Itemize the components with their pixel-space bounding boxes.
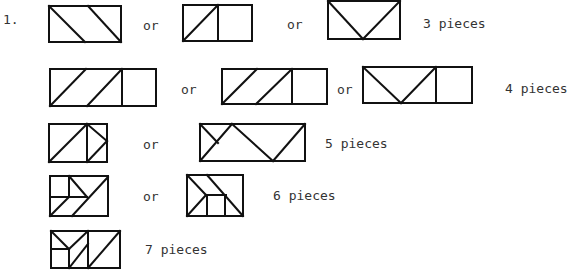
problem-number: 1. (3, 13, 19, 26)
or-label: or (337, 83, 353, 96)
row4-shape-a (50, 176, 108, 216)
row2-shape-b (222, 69, 327, 104)
row1-shape-b (183, 5, 252, 41)
row2-shape-c (363, 67, 472, 103)
dissection-figure-page: 1. or or 3 pieces or or 4 pieces or 5 pi… (0, 0, 571, 276)
row3-shape-b (200, 124, 305, 161)
row3-shape-a (49, 124, 107, 162)
or-label: or (143, 138, 159, 151)
or-label: or (181, 83, 197, 96)
row2-shape-a (50, 69, 156, 106)
row1-shape-c (328, 1, 400, 39)
row5-shape-a (51, 231, 120, 268)
pieces-label-row5: 7 pieces (145, 243, 208, 256)
pieces-label-row2: 4 pieces (505, 82, 568, 95)
or-label: or (143, 190, 159, 203)
pieces-label-row4: 6 pieces (273, 189, 336, 202)
or-label: or (143, 19, 159, 32)
pieces-label-row3: 5 pieces (325, 137, 388, 150)
or-label: or (287, 18, 303, 31)
pieces-label-row1: 3 pieces (423, 17, 486, 30)
row1-shape-a (49, 6, 121, 42)
dissection-diagrams (0, 0, 571, 276)
row4-shape-b (187, 175, 243, 216)
